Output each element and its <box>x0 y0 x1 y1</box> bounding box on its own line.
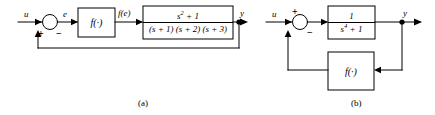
arrowhead-feedback-b <box>285 30 292 37</box>
plant-denominator-b: s4 + 1 <box>338 23 366 34</box>
arrowhead-fe-a <box>136 19 143 26</box>
error-label-a: e <box>63 10 67 19</box>
input-label-b: u <box>272 10 277 19</box>
arrowhead-input-a <box>35 19 42 26</box>
arrowhead-input-b <box>285 19 292 26</box>
plant-transfer-function-a: s2 + 1 (s + 1) (s + 2) (s + 3) <box>143 6 233 39</box>
block-diagram-figure: s2 + 1 (s + 1) (s + 2) (s + 3) f(·) u e … <box>0 0 435 115</box>
caption-a: (a) <box>138 99 148 108</box>
arrowhead-error-a <box>71 19 78 26</box>
plant-numerator-a: s2 + 1 <box>174 11 202 22</box>
arrowhead-feedback-in-b <box>374 67 381 74</box>
diagram-b: 1 s4 + 1 f(·) u y + − (b) <box>250 0 435 115</box>
output-label-a: y <box>240 9 244 18</box>
output-label-b: y <box>403 9 407 18</box>
output-tap-dot-a <box>236 19 241 24</box>
plant-transfer-function-b: 1 s4 + 1 <box>328 6 375 39</box>
summing-minus-a: − <box>56 29 62 39</box>
input-label-a: u <box>24 10 29 19</box>
summing-plus-b: + <box>292 7 298 17</box>
plant-numerator-b: 1 <box>346 11 357 22</box>
diagram-a: s2 + 1 (s + 1) (s + 2) (s + 3) f(·) u e … <box>0 0 250 115</box>
output-tap-dot-b <box>399 19 404 24</box>
summing-minus-b: − <box>307 28 313 38</box>
summing-plus-a: + <box>38 29 44 39</box>
nonlinear-block-label-a: f(·) <box>78 8 115 37</box>
fe-label-a: f(e) <box>118 9 131 18</box>
arrowhead-forward-b <box>321 19 328 26</box>
arrowhead-output-b <box>414 18 422 25</box>
caption-b: (b) <box>351 99 362 108</box>
feedback-block-label-b: f(·) <box>328 52 374 90</box>
plant-denominator-a: (s + 1) (s + 2) (s + 3) <box>146 23 230 34</box>
